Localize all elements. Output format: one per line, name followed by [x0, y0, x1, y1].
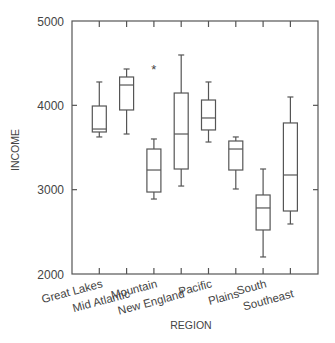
- iqr-box: [256, 195, 270, 230]
- x-axis-ticks: [99, 21, 290, 274]
- x-category-label: South: [235, 277, 267, 296]
- iqr-box: [92, 106, 106, 132]
- outlier-marker: *: [151, 62, 156, 77]
- y-tick-label: 3000: [37, 183, 64, 197]
- iqr-box: [283, 123, 297, 211]
- box-plot-chart: 2000300040005000 * Great LakesMid Atlant…: [0, 0, 335, 343]
- y-tick-label: 2000: [37, 268, 64, 282]
- box-mountain: *: [147, 62, 161, 199]
- box-southeast: [283, 97, 297, 224]
- box-series: *: [92, 55, 297, 257]
- y-tick-label: 5000: [37, 15, 64, 29]
- box-pacific: [202, 82, 216, 142]
- plot-frame: [72, 21, 318, 274]
- x-axis-category-labels: Great LakesMid AtlanticMountainNew Engla…: [40, 277, 295, 316]
- iqr-box: [174, 93, 188, 169]
- iqr-box: [202, 100, 216, 130]
- box-new-england: [174, 55, 188, 186]
- y-tick-label: 4000: [37, 99, 64, 113]
- box-south: [256, 169, 270, 257]
- x-axis-title: REGION: [170, 319, 211, 331]
- box-great-lakes: [92, 82, 106, 137]
- box-mid-atlantic: [120, 69, 134, 134]
- iqr-box: [229, 141, 243, 170]
- box-plains: [229, 137, 243, 189]
- x-category-label: Plains: [207, 287, 241, 307]
- iqr-box: [120, 77, 134, 110]
- y-axis-title: INCOME: [9, 129, 21, 171]
